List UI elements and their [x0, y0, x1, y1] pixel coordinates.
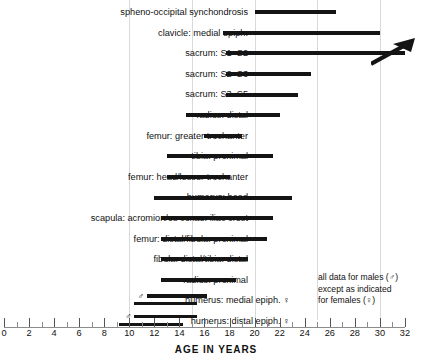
row-label: spheno-occipital synchondrosis	[120, 2, 248, 23]
axis-tick-27	[342, 322, 343, 327]
range-bar	[161, 257, 249, 261]
axis-tick-label: 24	[300, 328, 310, 338]
range-bar	[255, 10, 336, 14]
axis-tick-label: 2	[26, 328, 31, 338]
axis-tick-29	[367, 322, 368, 327]
chart-row: sacrum: S3–S5	[0, 84, 432, 105]
legend: all data for males (♂)except as indicate…	[318, 272, 398, 307]
range-bar	[186, 113, 280, 117]
axis-tick-label: 32	[400, 328, 410, 338]
axis-tick-21	[267, 322, 268, 327]
axis-tick-label: 10	[124, 328, 134, 338]
axis-tick-15	[192, 322, 193, 327]
axis-tick-label: 14	[174, 328, 184, 338]
axis-tick-23	[292, 322, 293, 327]
axis-tick-2	[29, 318, 30, 327]
axis-tick-1	[17, 322, 18, 327]
axis-tick-18	[230, 318, 231, 327]
chart-row: sacrum: S2–S3	[0, 64, 432, 85]
range-bar	[204, 134, 242, 138]
axis-tick-11	[142, 322, 143, 327]
axis-tick-25	[317, 322, 318, 327]
axis-tick-6	[79, 318, 80, 327]
axis-title: AGE IN YEARS	[0, 344, 432, 355]
axis-tick-label: 16	[199, 328, 209, 338]
range-bar	[147, 294, 207, 297]
axis-tick-19	[242, 322, 243, 327]
axis-tick-label: 28	[350, 328, 360, 338]
x-axis: 02468101214161820222426283032AGE IN YEAR…	[0, 318, 432, 358]
axis-tick-14	[179, 318, 180, 327]
axis-tick-label: 20	[249, 328, 259, 338]
range-bar	[226, 93, 299, 97]
axis-tick-28	[355, 318, 356, 327]
axis-tick-label: 0	[1, 328, 6, 338]
axis-tick-label: 22	[275, 328, 285, 338]
axis-tick-22	[280, 318, 281, 327]
axis-tick-5	[67, 322, 68, 327]
range-bar	[161, 237, 268, 241]
legend-line: except as indicated	[318, 284, 398, 296]
axis-tick-label: 6	[77, 328, 82, 338]
axis-tick-17	[217, 322, 218, 327]
axis-tick-label: 8	[102, 328, 107, 338]
chart-row: spheno-occipital synchondrosis	[0, 2, 432, 23]
axis-tick-12	[154, 318, 155, 327]
axis-tick-31	[392, 322, 393, 327]
axis-tick-8	[104, 318, 105, 327]
male-symbol-icon: ♂	[138, 292, 144, 301]
range-bar	[134, 302, 197, 305]
range-bar	[161, 278, 236, 282]
axis-tick-16	[204, 318, 205, 327]
legend-line: all data for males (♂)	[318, 272, 398, 284]
range-bar	[226, 72, 311, 76]
range-bar	[167, 154, 274, 158]
axis-tick-20	[255, 318, 256, 327]
axis-tick-32	[405, 318, 406, 327]
range-bar	[161, 216, 274, 220]
axis-tick-7	[92, 322, 93, 327]
axis-tick-label: 26	[325, 328, 335, 338]
axis-tick-label: 4	[52, 328, 57, 338]
axis-tick-9	[117, 322, 118, 327]
axis-tick-26	[330, 318, 331, 327]
axis-tick-label: 18	[224, 328, 234, 338]
range-bar	[167, 175, 230, 179]
axis-tick-3	[42, 322, 43, 327]
axis-tick-30	[380, 318, 381, 327]
open-ended-arrow-icon	[371, 38, 417, 72]
legend-line: for females (♀)	[318, 295, 398, 307]
axis-tick-4	[54, 318, 55, 327]
age-in-years-bar-chart: spheno-occipital synchondrosisclavicle: …	[0, 0, 432, 358]
axis-tick-13	[167, 322, 168, 327]
range-bar	[154, 196, 292, 200]
axis-tick-0	[4, 318, 5, 327]
axis-tick-24	[305, 318, 306, 327]
axis-tick-label: 30	[375, 328, 385, 338]
axis-tick-10	[129, 318, 130, 327]
range-bar	[223, 31, 380, 35]
axis-tick-label: 12	[149, 328, 159, 338]
